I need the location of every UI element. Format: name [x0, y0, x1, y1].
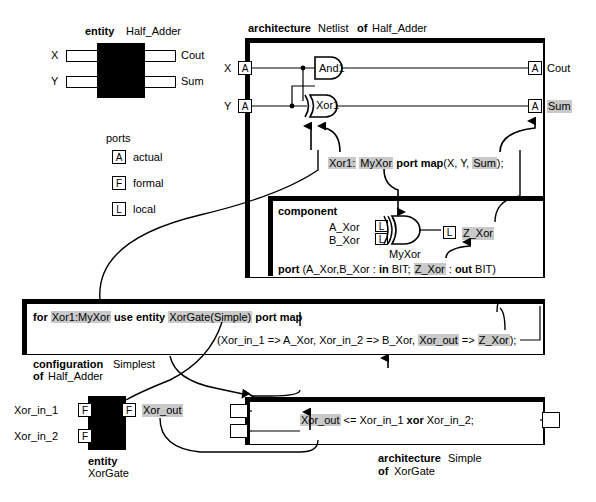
- curve-to-simple-top: [252, 390, 300, 396]
- junction-y: [290, 104, 295, 109]
- xor-gate-shape: [310, 95, 337, 117]
- curve-config-down-to-simple: [170, 356, 243, 394]
- curve-zxor-up: [495, 150, 520, 222]
- arrow-inst-sum-to-port: [500, 121, 535, 152]
- curve-config-zxor-b: [497, 300, 500, 312]
- and-gate-shape: [315, 57, 342, 79]
- junction-x: [301, 66, 306, 71]
- config-return-line: [520, 306, 540, 340]
- curve-xorout-to-simple: [160, 418, 318, 452]
- myxor-gate-shape: [392, 216, 420, 244]
- diagram-canvas: entity Half_Adder X Y Cout Sum ports A a…: [0, 0, 596, 502]
- curve-config-zxor: [500, 308, 505, 330]
- arrow-inst-to-xor-in2: [325, 126, 340, 152]
- curve-config-to-entity-xorgate: [126, 322, 222, 400]
- arrow-into-simple-box: [246, 392, 255, 398]
- arrow-myxor-to-component-gate: [384, 169, 398, 212]
- arrow-portdecl-to-zxor: [446, 242, 470, 258]
- connection-layer: [0, 0, 596, 502]
- curve-config-to-xor1: [100, 150, 318, 300]
- myxor-gate-arc-2: [384, 216, 388, 244]
